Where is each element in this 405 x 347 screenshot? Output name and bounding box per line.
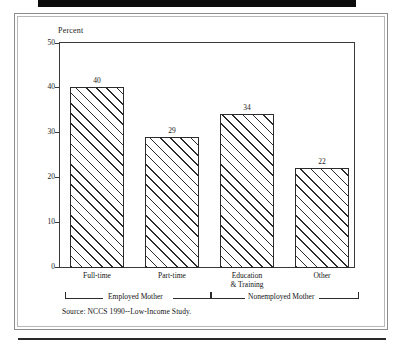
y-tick-mark-50 (55, 43, 59, 44)
bracket-segment-left (65, 298, 103, 299)
bar-full-time[interactable] (70, 87, 124, 268)
bar-chart: Percent 50 40 30 20 10 0 40 29 34 22 Ful… (14, 13, 388, 330)
y-tick-label-40: 40 (31, 83, 55, 91)
category-label-part-time: Part-time (137, 271, 207, 280)
y-tick-label-10: 10 (31, 218, 55, 226)
category-label-other: Other (287, 271, 357, 280)
group-label-nonemployed-mother: Nonemployed Mother (248, 293, 314, 301)
scan-artifact-bar (38, 0, 356, 7)
source-note: Source: NCCS 1990--Low-Income Study. (62, 307, 191, 316)
bar-value-part-time: 29 (145, 127, 199, 135)
bar-part-time[interactable] (145, 137, 199, 268)
bracket-segment-right (319, 298, 359, 299)
y-tick-label-0: 0 (31, 263, 55, 271)
y-tick-mark-40 (55, 87, 59, 88)
page-root: Percent 50 40 30 20 10 0 40 29 34 22 Ful… (0, 0, 405, 347)
bar-other[interactable] (295, 168, 349, 268)
y-tick-mark-10 (55, 222, 59, 223)
bar-value-education-training: 34 (220, 104, 274, 112)
category-label-education-training: Education & Training (212, 271, 282, 289)
y-tick-mark-20 (55, 177, 59, 178)
footer-rule (18, 338, 386, 340)
bar-education-training[interactable] (220, 114, 274, 268)
y-tick-label-20: 20 (31, 173, 55, 181)
group-label-employed-mother: Employed Mother (108, 293, 163, 301)
y-tick-label-50: 50 (31, 39, 55, 47)
y-axis-title: Percent (58, 26, 83, 35)
bar-value-other: 22 (295, 158, 349, 166)
y-tick-label-30: 30 (31, 128, 55, 136)
bracket-segment-left (211, 298, 245, 299)
bracket-segment-right (173, 298, 211, 299)
bar-value-full-time: 40 (70, 77, 124, 85)
y-tick-mark-30 (55, 132, 59, 133)
category-label-full-time: Full-time (62, 271, 132, 280)
y-tick-mark-0 (55, 267, 59, 268)
